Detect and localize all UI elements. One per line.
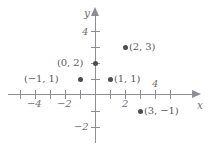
x-tick-neg3 [50,90,51,99]
data-point-label-3-neg1: (3, −1) [144,105,179,116]
y-axis-label: y [84,7,90,19]
y-axis-line [95,10,96,143]
data-point-0-2[interactable] [93,61,98,66]
data-point-label-2-3: (2, 3) [129,41,155,52]
data-point-2-3[interactable] [123,45,128,50]
x-axis-arrow-icon [192,90,201,98]
x-tick-pos3 [140,90,141,99]
y-axis-arrow-icon [91,7,99,16]
y-tick-label-neg2: −2 [74,121,88,132]
x-tick-neg5 [20,90,21,99]
x-axis-label: x [197,99,203,111]
data-point-label-0-2: (0, 2) [57,57,83,68]
y-tick-pos1 [91,79,100,80]
x-tick-label-pos2: 2 [122,98,128,109]
x-tick-neg1 [80,90,81,99]
y-tick-pos4 [91,31,100,32]
x-tick-label-neg2: −2 [57,98,71,109]
x-tick-label-pos4: 4 [152,78,158,89]
x-tick-label-neg4: −4 [27,98,41,109]
y-tick-label-pos4: 4 [82,26,88,37]
coordinate-plane-figure: −4 −2 2 4 4 −2 y x (0, 2) (−1, 1) (1, 1)… [0,0,212,151]
y-tick-neg2 [91,127,100,128]
data-point-3-neg1[interactable] [138,109,143,114]
data-point-label-1-1: (1, 1) [114,73,140,84]
y-tick-pos3 [91,47,100,48]
data-point-neg1-1[interactable] [78,77,83,82]
x-tick-pos5 [170,90,171,99]
x-tick-pos1 [110,90,111,99]
data-point-label-neg1-1: (−1, 1) [24,73,59,84]
y-tick-neg1 [91,111,100,112]
data-point-1-1[interactable] [108,77,113,82]
x-tick-pos4 [155,90,156,99]
